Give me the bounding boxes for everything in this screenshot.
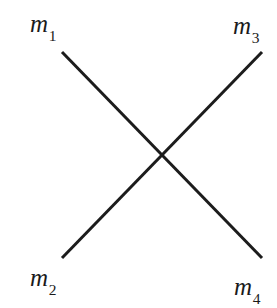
mass-label-m2: m2	[30, 265, 56, 295]
mass-label-m1: m1	[30, 11, 56, 41]
mass-label-m1-subscript: 1	[49, 27, 57, 44]
mass-label-m3-base: m	[233, 12, 251, 39]
mass-label-m1-base: m	[30, 10, 48, 37]
mass-label-m4-base: m	[234, 273, 252, 300]
mass-label-m2-subscript: 2	[49, 281, 57, 298]
mass-label-m3: m3	[233, 13, 259, 43]
mass-label-m2-base: m	[30, 264, 48, 291]
mass-label-m4: m4	[234, 274, 260, 304]
mass-label-m4-subscript: 4	[253, 290, 261, 307]
crossing-lines-diagram	[0, 0, 277, 308]
mass-label-m3-subscript: 3	[252, 29, 260, 46]
figure-root: m1 m3 m2 m4	[0, 0, 277, 308]
